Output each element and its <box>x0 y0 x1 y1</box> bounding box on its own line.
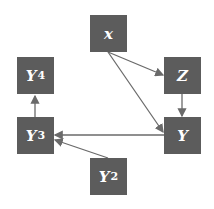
node-y4-subscript: 4 <box>38 69 46 82</box>
node-z: Z <box>164 57 201 94</box>
node-x: x <box>90 15 127 52</box>
edge-y2-to-y3 <box>55 140 108 158</box>
node-y2-label: Y <box>99 168 110 186</box>
node-y2: Y2 <box>90 158 127 195</box>
node-y4: Y4 <box>17 57 54 94</box>
node-y4-label: Y <box>26 67 37 85</box>
node-x-label: x <box>104 25 113 43</box>
node-y: Y <box>164 117 201 154</box>
node-z-label: Z <box>177 67 188 85</box>
node-y-label: Y <box>177 127 188 145</box>
node-y3-subscript: 3 <box>38 129 46 142</box>
node-y3: Y3 <box>17 117 54 154</box>
node-y2-subscript: 2 <box>111 170 119 183</box>
node-y3-label: Y <box>26 127 37 145</box>
